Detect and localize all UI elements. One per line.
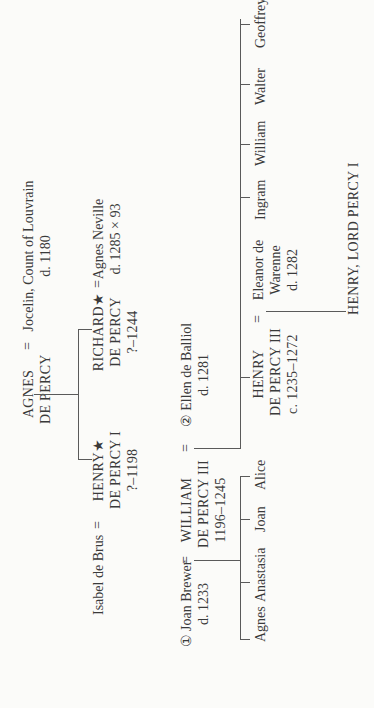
eleanor-dates: d. 1282: [284, 234, 301, 306]
daughter-alice: Alice: [252, 460, 269, 490]
branch-alice: [240, 476, 250, 477]
daughter-joan: Joan: [252, 506, 269, 532]
henry-i-name-line2: DE PERCY I: [107, 430, 124, 510]
descent-bar-henry-iii: [240, 229, 241, 449]
henry-de-percy-iii: HENRY DE PERCY III c. 1235–1272: [250, 332, 301, 416]
marriage-sign-wife1: =: [178, 556, 194, 564]
descent-line-henry-iii: [266, 311, 346, 312]
henry-lord-percy-i: HENRY, LORD PERCY I: [345, 162, 362, 315]
william-name-line1: WILLIAM: [178, 472, 195, 548]
william-dates: 1196–1245: [212, 472, 229, 548]
descent-line-william-henry: [194, 448, 240, 449]
henry-iii-name-line1: HENRY: [250, 332, 267, 416]
daughter-agnes: Agnes: [252, 606, 269, 642]
henry-iii-name-line2: DE PERCY III: [267, 332, 284, 416]
joan-brewer-name: ① Joan Brewer: [178, 556, 195, 652]
son-geoffrey: Geoffrey: [252, 0, 269, 48]
marriage-sign-agnes: =: [20, 342, 36, 350]
sibling-bar-daughters: [240, 476, 241, 640]
descent-line-william-daughters: [194, 560, 240, 561]
branch-william: [240, 144, 250, 145]
ellen-de-balliol-name: ② Ellen de Balliol: [178, 320, 195, 430]
daughter-anastasia: Anastasia: [252, 548, 269, 602]
descent-line-agnes: [34, 394, 78, 395]
eleanor-de-warenne: Eleanor de Warenne d. 1282: [250, 234, 301, 306]
eleanor-name-line1: Eleanor de: [250, 234, 267, 306]
richard-name-line1: RICHARD★: [90, 290, 107, 374]
son-ingram: Ingram: [252, 180, 269, 220]
son-william: William: [252, 121, 269, 166]
marriage-sign-henry-iii: =: [250, 315, 266, 323]
henry-i-name-line1: HENRY★: [90, 430, 107, 510]
joan-brewer-dates: d. 1233: [195, 556, 212, 652]
branch-agnes: [240, 639, 250, 640]
ellen-de-balliol-dates: d. 1281: [195, 320, 212, 430]
branch-walter: [240, 84, 250, 85]
branch-anastasia: [240, 582, 250, 583]
agnes-neville-dates: d. 1285 × 93: [107, 198, 124, 298]
richard-de-percy: RICHARD★ DE PERCY ?–1244: [90, 290, 141, 374]
william-de-percy-iii: WILLIAM DE PERCY III 1196–1245: [178, 472, 229, 548]
jocelin-count-of-louvrain: Jocelin, Count of Louvrain d. 1180: [20, 176, 54, 336]
agnes-neville-name: Agnes Neville: [90, 198, 107, 298]
marriage-sign-wife2: =: [178, 444, 194, 452]
william-name-line2: DE PERCY III: [195, 472, 212, 548]
eleanor-name-line2: Warenne: [267, 234, 284, 306]
henry-iii-dates: c. 1235–1272: [284, 332, 301, 416]
jocelin-name: Jocelin, Count of Louvrain: [20, 176, 37, 336]
son-walter: Walter: [252, 68, 269, 105]
henry-de-percy-i: HENRY★ DE PERCY I ?–1198: [90, 430, 141, 510]
branch-joan: [240, 519, 250, 520]
henry-i-dates: ?–1198: [124, 430, 141, 510]
jocelin-dates: d. 1180: [37, 176, 54, 336]
sibling-bar-gen2: [78, 330, 79, 460]
branch-geoffrey: [240, 24, 250, 25]
richard-dates: ?–1244: [124, 290, 141, 374]
ellen-de-balliol: ② Ellen de Balliol d. 1281: [178, 320, 212, 430]
agnes-neville: Agnes Neville d. 1285 × 93: [90, 198, 124, 298]
joan-brewer: ① Joan Brewer d. 1233: [178, 556, 212, 652]
marriage-sign-henry: =: [90, 521, 106, 529]
richard-name-line2: DE PERCY: [107, 290, 124, 374]
branch-henry-iii: [240, 377, 250, 378]
branch-ingram: [240, 197, 250, 198]
isabel-de-brus: Isabel de Brus: [90, 535, 107, 615]
family-tree-diagram: AGNES DE PERCY = Jocelin, Count of Louvr…: [0, 0, 374, 708]
